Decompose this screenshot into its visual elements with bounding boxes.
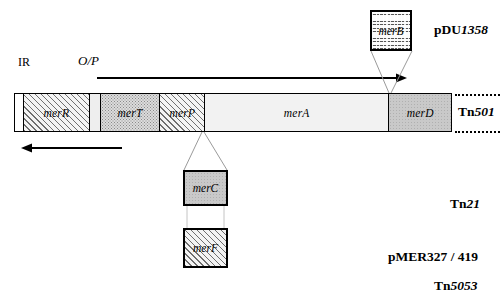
bar-segment-merP-label: merP — [169, 107, 195, 119]
bar-segment-merR[interactable]: merR — [24, 94, 90, 131]
operator-promoter-label: O/P — [78, 54, 99, 67]
bar-segment-merA[interactable]: merA — [205, 94, 389, 131]
bar-continuation-bottom — [455, 131, 500, 133]
merc-merf-connector — [187, 206, 224, 228]
diagram-canvas: IR O/P merR merT — [0, 0, 502, 296]
label-Tn5053-number: 5053 — [451, 278, 478, 293]
callout-box-merC[interactable]: merC — [183, 170, 228, 206]
bar-segment-ir[interactable] — [15, 94, 24, 131]
callout-merB-label: merB — [379, 25, 404, 37]
label-pDU1358-number: 1358 — [461, 22, 488, 37]
ir-label: IR — [18, 56, 30, 68]
callout-box-merB[interactable]: merB — [370, 10, 412, 51]
merb-leader-lines — [371, 51, 412, 93]
gene-bar: merR merT merP merA merD — [14, 93, 452, 132]
bar-segment-merD-label: merD — [407, 107, 434, 119]
label-Tn501: Tn501 — [458, 105, 495, 119]
bar-segment-merA-label: merA — [284, 107, 310, 119]
callout-box-merF[interactable]: merF — [183, 228, 228, 268]
bar-segment-merR-label: merR — [43, 107, 69, 119]
label-pDU1358: pDU1358 — [434, 23, 488, 37]
bar-continuation-top — [455, 94, 500, 96]
bar-segment-spacer[interactable] — [90, 94, 101, 131]
reverse-transcript-arrow — [21, 144, 122, 153]
bar-segment-merT[interactable]: merT — [101, 94, 161, 131]
label-Tn501-number: 501 — [475, 104, 495, 119]
callout-merC-label: merC — [193, 182, 219, 194]
forward-transcript-arrow — [97, 74, 407, 83]
merc-leader-lines — [184, 132, 227, 170]
bar-segment-merT-label: merT — [117, 107, 142, 119]
callout-merF-label: merF — [193, 242, 218, 254]
label-Tn21-number: 21 — [467, 196, 481, 211]
bar-segment-merP[interactable]: merP — [160, 94, 205, 131]
label-pMER327-419: pMER327 / 419 — [388, 250, 478, 264]
label-Tn21: Tn21 — [450, 197, 480, 211]
label-Tn5053: Tn5053 — [434, 279, 478, 293]
bar-segment-merD[interactable]: merD — [389, 94, 451, 131]
